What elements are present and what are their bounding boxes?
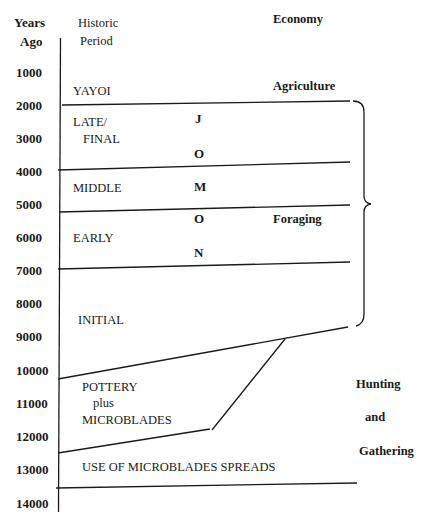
tick-7000: 7000 xyxy=(16,263,42,278)
boundary-late-middle xyxy=(58,162,350,170)
boundary-initial-pottery xyxy=(58,327,348,379)
jomon-letter-n: N xyxy=(194,245,204,260)
period-microblades: MICROBLADES xyxy=(82,413,172,427)
economy-and: and xyxy=(365,410,385,424)
economy-gathering: Gathering xyxy=(359,444,415,458)
jomon-letter-j: J xyxy=(195,111,202,126)
header-years: Years xyxy=(14,15,45,30)
tick-5000: 5000 xyxy=(16,197,42,212)
jomon-chronology-diagram: Years Ago Historic Period Economy 1000 2… xyxy=(0,0,428,519)
boundary-pottery-microblades xyxy=(58,429,210,453)
tick-6000: 6000 xyxy=(16,230,42,245)
period-plus: plus xyxy=(93,396,114,410)
year-axis-labels: 1000 2000 3000 4000 5000 6000 7000 8000 … xyxy=(16,65,49,511)
jomon-letter-m: M xyxy=(194,179,206,194)
boundary-early-initial xyxy=(58,262,350,269)
boundary-microblades-spread xyxy=(56,483,357,488)
jomon-letter-o2: O xyxy=(194,211,204,226)
jomon-label: J O M O N xyxy=(194,111,206,260)
tick-2000: 2000 xyxy=(16,98,42,113)
time-axis-line xyxy=(59,38,61,512)
boundary-yayoi-jomon xyxy=(62,101,350,105)
tick-8000: 8000 xyxy=(16,296,42,311)
period-microblades-spread: USE OF MICROBLADES SPREADS xyxy=(82,460,275,474)
period-yayoi: YAYOI xyxy=(73,84,111,98)
tick-14000: 14000 xyxy=(16,496,49,511)
header-period: Period xyxy=(80,34,113,48)
tick-11000: 11000 xyxy=(16,396,48,411)
period-final: FINAL xyxy=(83,132,120,146)
tick-3000: 3000 xyxy=(16,131,42,146)
period-pottery: POTTERY xyxy=(82,380,138,394)
header-ago: Ago xyxy=(20,34,42,49)
tick-13000: 13000 xyxy=(16,462,49,477)
foraging-brace xyxy=(353,101,371,326)
period-early: EARLY xyxy=(73,231,113,245)
boundary-middle-early xyxy=(59,205,350,212)
header-economy: Economy xyxy=(273,12,324,26)
header-historic: Historic xyxy=(78,16,119,30)
period-initial: INITIAL xyxy=(78,313,124,327)
tick-9000: 9000 xyxy=(16,329,42,344)
tick-4000: 4000 xyxy=(16,164,42,179)
tick-1000: 1000 xyxy=(16,65,42,80)
tick-12000: 12000 xyxy=(16,429,49,444)
economy-hunting: Hunting xyxy=(356,377,401,391)
period-late: LATE/ xyxy=(73,115,108,129)
jomon-letter-o1: O xyxy=(194,146,204,161)
economy-foraging: Foraging xyxy=(273,212,322,226)
tick-10000: 10000 xyxy=(16,363,49,378)
economy-agriculture: Agriculture xyxy=(273,79,336,93)
diagonal-boundary xyxy=(212,339,285,430)
period-middle: MIDDLE xyxy=(73,181,122,195)
